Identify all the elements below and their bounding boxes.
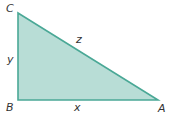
vertex-label-c: C (6, 3, 14, 14)
triangle-svg (0, 0, 170, 118)
vertex-label-a: A (158, 103, 166, 114)
right-triangle-diagram: C B A y x z (0, 0, 170, 118)
side-label-z: z (76, 34, 82, 45)
vertex-label-b: B (6, 102, 14, 113)
side-label-x: x (74, 102, 81, 113)
side-label-y: y (7, 54, 14, 65)
triangle-shape (18, 13, 158, 100)
